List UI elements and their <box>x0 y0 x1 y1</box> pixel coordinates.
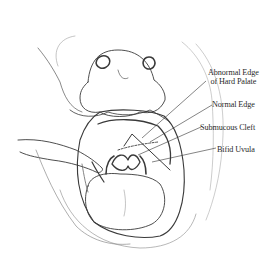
palate-illustration <box>0 0 267 264</box>
lower-lip <box>60 190 196 248</box>
label-submucous-cleft-text: Submucous Cleft <box>200 123 255 132</box>
leader-submucous-cleft <box>138 127 201 155</box>
label-abnormal-edge-line2: of Hard Palate <box>208 77 259 86</box>
palate-dome <box>98 120 171 164</box>
label-abnormal-edge: Abnormal Edge of Hard Palate <box>208 68 259 86</box>
label-bifid-uvula: Bifid Uvula <box>217 145 255 154</box>
finger <box>18 140 103 173</box>
label-normal-edge-text: Normal Edge <box>212 100 255 109</box>
face-outline <box>38 48 82 112</box>
label-bifid-uvula-text: Bifid Uvula <box>217 145 255 154</box>
left-nostril <box>94 54 112 71</box>
label-normal-edge: Normal Edge <box>212 100 255 109</box>
leader-bifid-uvula <box>152 148 216 162</box>
label-abnormal-edge-line1: Abnormal Edge <box>208 68 259 77</box>
label-submucous-cleft: Submucous Cleft <box>200 123 255 132</box>
right-nostril <box>141 55 156 70</box>
bifid-uvula-shape <box>112 155 140 170</box>
nose-outline <box>80 50 165 117</box>
abnormal-palate-edge <box>124 134 170 170</box>
tongue <box>86 174 165 230</box>
mouth-opening <box>77 110 184 238</box>
